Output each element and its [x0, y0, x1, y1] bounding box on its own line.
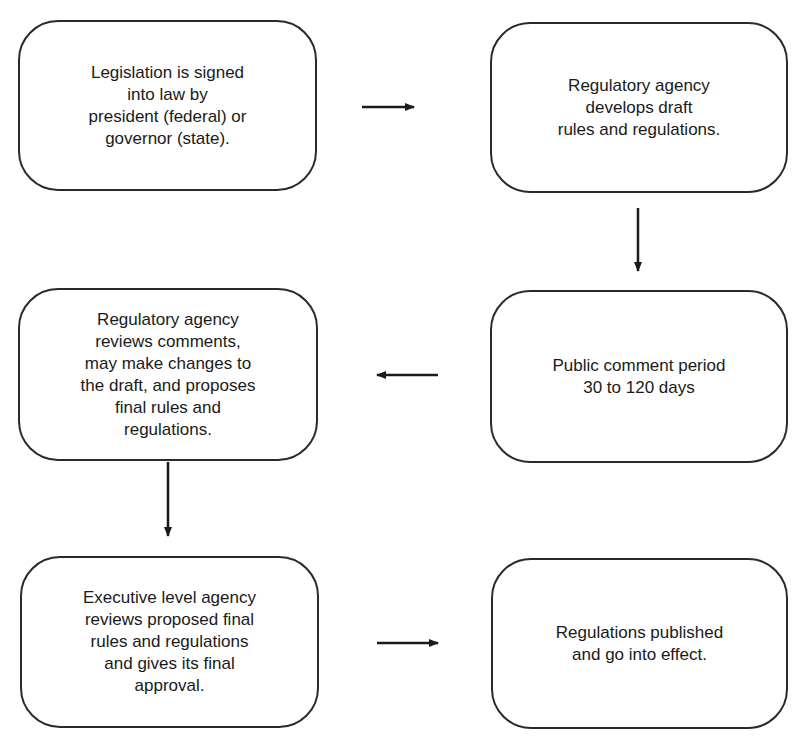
connector-arrows [0, 0, 803, 745]
